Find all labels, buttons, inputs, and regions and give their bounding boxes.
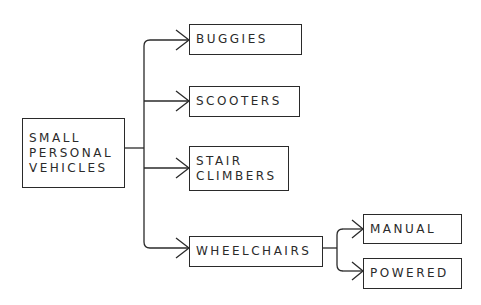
node-label: BUGGIES: [196, 32, 295, 47]
node-label: POWERED: [370, 266, 455, 281]
node-label: MANUAL: [370, 222, 455, 237]
node-label: SCOOTERS: [196, 94, 293, 109]
node-label: VEHICLES: [29, 161, 118, 176]
node-buggies: BUGGIES: [189, 24, 302, 55]
node-label: CLIMBERS: [196, 169, 282, 184]
node-scooters: SCOOTERS: [189, 86, 300, 117]
node-powered: POWERED: [363, 258, 462, 289]
node-label: WHEELCHAIRS: [196, 244, 316, 259]
node-label: PERSONAL: [29, 146, 118, 161]
node-small-personal-vehicles: SMALL PERSONAL VEHICLES: [22, 118, 125, 188]
node-wheelchairs: WHEELCHAIRS: [189, 236, 323, 267]
node-label: STAIR: [196, 154, 282, 169]
node-manual: MANUAL: [363, 214, 462, 244]
node-label: SMALL: [29, 131, 118, 146]
node-stair-climbers: STAIR CLIMBERS: [189, 146, 289, 191]
